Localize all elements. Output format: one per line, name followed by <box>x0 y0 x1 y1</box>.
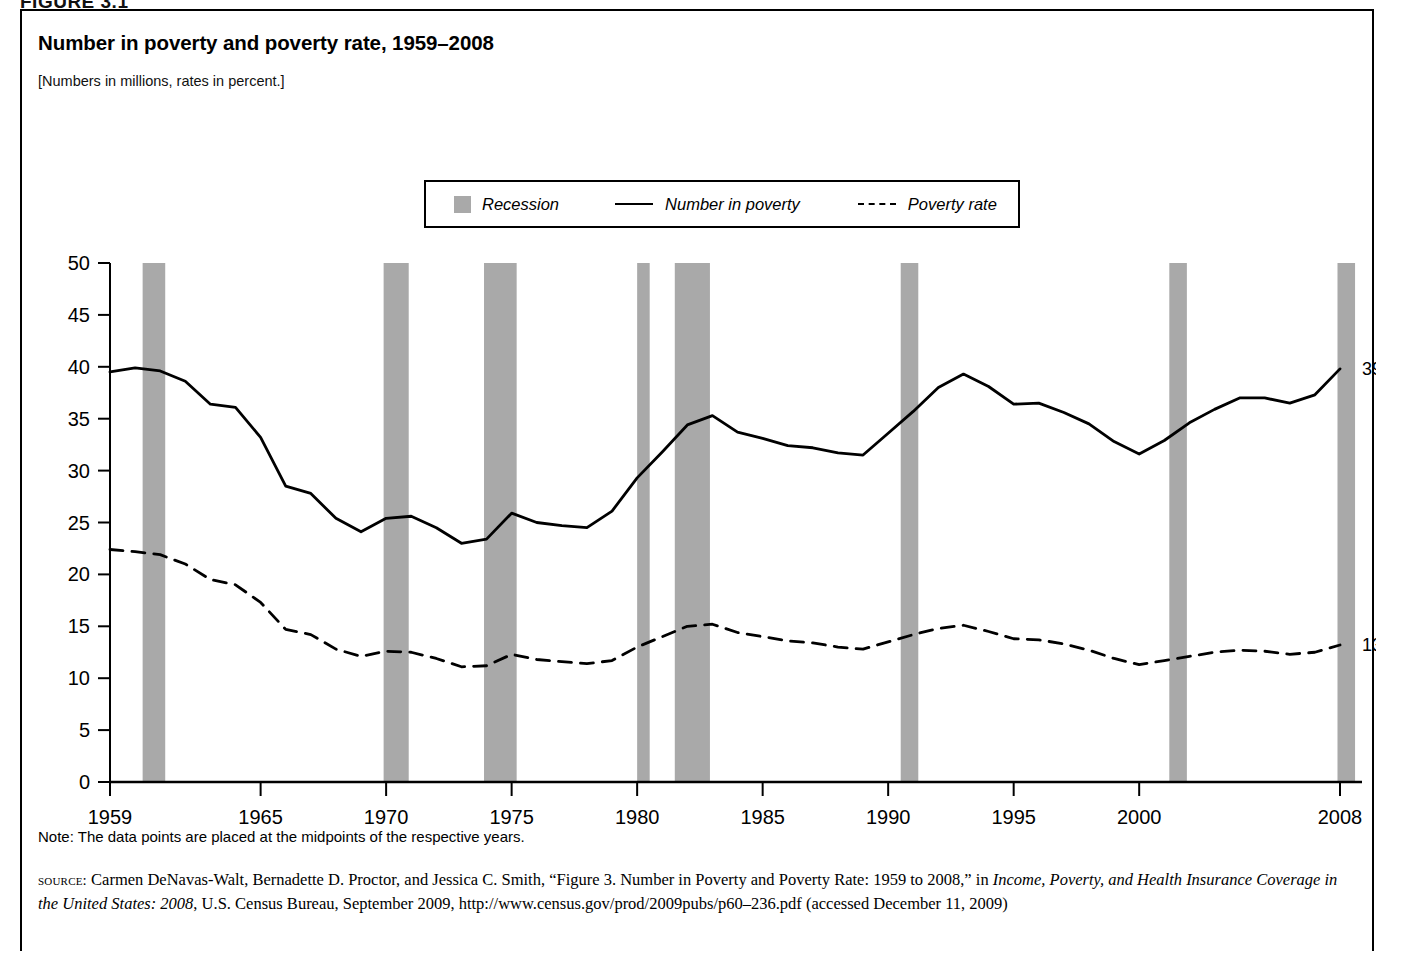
x-axis-tick-label: 1980 <box>615 806 660 828</box>
x-axis-tick-labels: 1959196519701975198019851990199520002008 <box>88 806 1363 828</box>
recession-band <box>637 263 650 782</box>
figure-note: Note: The data points are placed at the … <box>38 828 525 845</box>
x-axis-tick-label: 1970 <box>364 806 409 828</box>
y-axis-tick-label: 25 <box>68 512 90 534</box>
y-axis-tick-label: 15 <box>68 615 90 637</box>
recession-band <box>675 263 710 782</box>
figure-frame: Number in poverty and poverty rate, 1959… <box>20 9 1374 951</box>
x-axis-tick-label: 1990 <box>866 806 911 828</box>
y-axis-tick-label: 50 <box>68 252 90 274</box>
poverty-rate-line <box>110 549 1340 666</box>
y-axis-tick-label: 10 <box>68 667 90 689</box>
x-axis-tick-label: 2000 <box>1117 806 1162 828</box>
data-series-group <box>110 368 1340 667</box>
chart-svg: 05101520253035404550 1959196519701975198… <box>22 11 1376 841</box>
recession-band <box>384 263 409 782</box>
x-axis-tick-label: 2008 <box>1318 806 1363 828</box>
x-axis-tick-label: 1985 <box>740 806 785 828</box>
figure-page: FIGURE 3.1 Number in poverty and poverty… <box>0 0 1402 957</box>
recession-band <box>1169 263 1187 782</box>
x-axis-tick-label: 1959 <box>88 806 133 828</box>
y-axis-tick-label: 0 <box>79 771 90 793</box>
y-axis-tick-label: 5 <box>79 719 90 741</box>
poverty-rate-end-label: 13.2 percent <box>1362 635 1376 655</box>
source-kicker: source: <box>38 872 87 888</box>
y-axis-tick-label: 45 <box>68 304 90 326</box>
recession-band <box>1337 263 1355 782</box>
x-axis-tick-label: 1965 <box>238 806 283 828</box>
x-axis-tick-label: 1975 <box>489 806 534 828</box>
recession-band <box>143 263 166 782</box>
y-axis-tick-label: 30 <box>68 460 90 482</box>
figure-source: source: Carmen DeNavas-Walt, Bernadette … <box>38 868 1358 917</box>
recession-bands-group <box>143 263 1355 782</box>
source-part2: , U.S. Census Bureau, September 2009, ht… <box>193 894 1007 913</box>
y-axis-tick-labels: 05101520253035404550 <box>68 252 90 793</box>
recession-band <box>484 263 517 782</box>
recession-band <box>901 263 919 782</box>
y-axis-tick-label: 20 <box>68 563 90 585</box>
y-axis-tick-label: 40 <box>68 356 90 378</box>
number-in-poverty-end-label: 39.8 million <box>1362 359 1376 379</box>
source-part1: Carmen DeNavas-Walt, Bernadette D. Proct… <box>87 870 993 889</box>
end-annotations-group: 39.8 million13.2 percent <box>1362 359 1376 655</box>
x-axis-tick-label: 1995 <box>991 806 1036 828</box>
chart-plot-area: 05101520253035404550 1959196519701975198… <box>22 11 1376 841</box>
number-in-poverty-line <box>110 368 1340 543</box>
y-axis-tick-label: 35 <box>68 408 90 430</box>
